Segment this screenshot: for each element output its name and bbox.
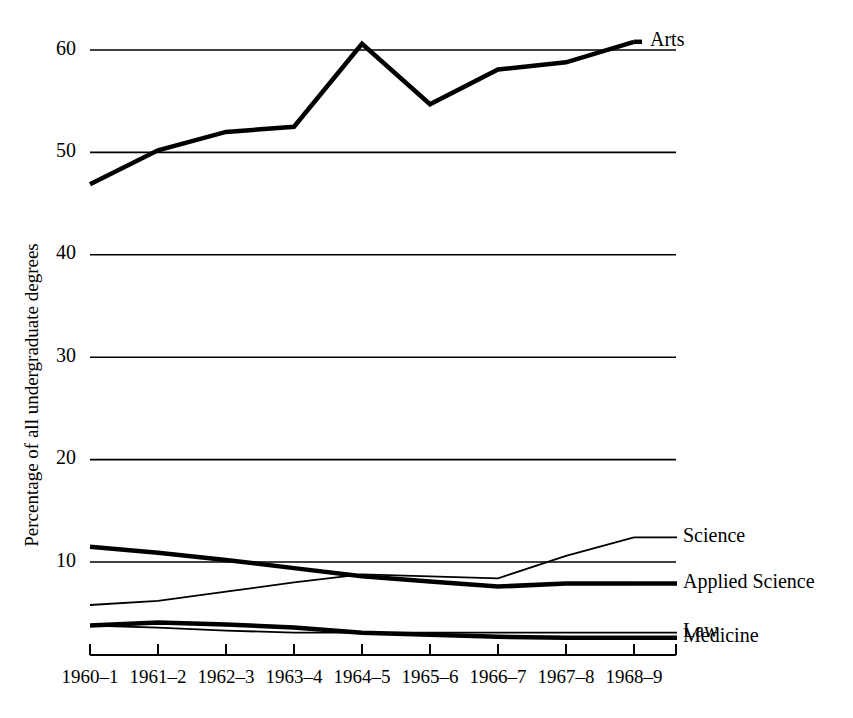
series-label-applied-science: Applied Science bbox=[683, 570, 815, 593]
x-tick-label: 1963–4 bbox=[266, 666, 324, 687]
x-tick-label: 1967–8 bbox=[538, 666, 595, 687]
x-tick-label: 1965–6 bbox=[402, 666, 459, 687]
chart-svg: 102030405060 1960–11961–21962–31963–4196… bbox=[0, 0, 853, 718]
x-tick-label: 1964–5 bbox=[334, 666, 391, 687]
x-tick-label: 1962–3 bbox=[198, 666, 255, 687]
series-label-medicine: Medicine bbox=[683, 624, 759, 646]
y-tick-label: 60 bbox=[56, 37, 76, 59]
x-tick-label: 1960–1 bbox=[62, 666, 119, 687]
y-tick-label: 10 bbox=[56, 549, 76, 571]
x-axis-tick-labels: 1960–11961–21962–31963–41964–51965–61966… bbox=[62, 666, 663, 687]
y-tick-label: 20 bbox=[56, 446, 76, 468]
y-tick-label: 40 bbox=[56, 241, 76, 263]
series-label-arts: Arts bbox=[650, 28, 685, 50]
y-tick-label: 50 bbox=[56, 139, 76, 161]
x-tick-label: 1968–9 bbox=[606, 666, 663, 687]
chart-background bbox=[0, 0, 853, 718]
series-label-science: Science bbox=[683, 524, 745, 546]
y-axis-title: Percentage of all undergraduate degrees bbox=[21, 243, 42, 547]
x-tick-label: 1966–7 bbox=[470, 666, 527, 687]
y-tick-label: 30 bbox=[56, 344, 76, 366]
chart-figure: 102030405060 1960–11961–21962–31963–4196… bbox=[0, 0, 853, 718]
x-tick-label: 1961–2 bbox=[130, 666, 187, 687]
